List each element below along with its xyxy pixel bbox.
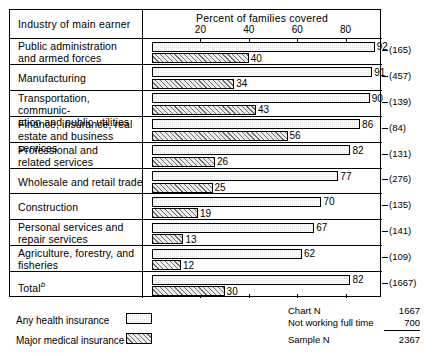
sample-size-value-1: (457) [389, 71, 411, 81]
bar-value-major-medical-6: 19 [200, 209, 211, 219]
category-label-0: Public administrationand armed forces [18, 40, 144, 64]
legend-swatch-any-health-insurance [126, 313, 152, 324]
bar-value-major-medical-5: 25 [215, 183, 226, 193]
bar-any-health-1 [152, 67, 372, 77]
stat-value-sample-n: 2367 [399, 334, 420, 345]
stat-label-sample-n: Sample N [288, 334, 330, 345]
x-tickmark-bottom-80 [346, 294, 347, 298]
sample-size-tick-8 [382, 257, 388, 258]
sample-size-value-2: (139) [389, 97, 411, 107]
sample-size-value-6: (135) [389, 200, 411, 210]
x-tick-label-20: 20 [195, 24, 206, 35]
sample-size-value-9: (1667) [389, 278, 416, 288]
stat-value-chart-n: 1667 [399, 305, 420, 316]
category-label-6: Construction [18, 201, 144, 213]
bar-value-major-medical-8: 12 [183, 261, 194, 271]
bar-value-major-medical-4: 26 [217, 157, 228, 167]
category-label-line: Agriculture, forestry, and [18, 247, 144, 259]
bar-any-health-7 [152, 223, 314, 233]
legend-label-major-medical-insurance: Major medical insurance [16, 335, 124, 346]
stat-row-chart-n: Chart N 1667 [288, 305, 420, 317]
category-label-line: Public administration [18, 40, 144, 52]
category-label-line: Personal services and [18, 221, 144, 233]
category-label-line: Finance, insurance, real [18, 118, 144, 130]
sample-size-tick-7 [382, 231, 388, 232]
bar-value-major-medical-9: 30 [227, 287, 238, 297]
stat-row-sample-n: Sample N 2367 [288, 334, 420, 346]
bar-value-any-health-3: 86 [362, 120, 373, 130]
bar-major-medical-5 [152, 183, 213, 193]
category-label-line: and armed forces [18, 52, 144, 64]
x-tick-label-80: 80 [340, 24, 351, 35]
category-label-line: repair services [18, 233, 144, 245]
category-label-line: Wholesale and retail trade [18, 176, 144, 188]
chart-legend: Any health insurance Major medical insur… [16, 312, 156, 352]
sample-size-tick-1 [382, 76, 388, 77]
bar-value-any-health-8: 62 [304, 249, 315, 259]
x-tick-label-60: 60 [292, 24, 303, 35]
health-insurance-bar-chart: Industry of main earner Percent of famil… [0, 0, 434, 356]
bar-major-medical-3 [152, 131, 288, 141]
bar-value-any-health-7: 67 [316, 223, 327, 233]
bar-value-major-medical-0: 40 [251, 54, 262, 64]
bar-any-health-9 [152, 275, 350, 285]
bar-value-any-health-5: 77 [340, 172, 351, 182]
bar-value-major-medical-2: 43 [258, 105, 269, 115]
sample-size-value-5: (276) [389, 174, 411, 184]
bar-major-medical-4 [152, 157, 215, 167]
stat-sum-rule [384, 330, 420, 331]
category-label-line: Construction [18, 201, 144, 213]
sample-size-tick-9 [382, 283, 388, 284]
bar-major-medical-8 [152, 260, 181, 270]
bar-major-medical-1 [152, 79, 234, 89]
axis-title: Percent of families covered [143, 12, 381, 24]
footnote-marker: b [41, 280, 46, 289]
sample-size-value-4: (131) [389, 149, 411, 159]
category-label-line: Totalb [18, 279, 144, 294]
chart-frame: Industry of main earner Percent of famil… [9, 9, 381, 297]
x-tickmark-bottom-40 [249, 294, 250, 298]
bar-any-health-4 [152, 145, 350, 155]
bar-major-medical-7 [152, 234, 183, 244]
stat-label-not-working-full-time: Not working full time [288, 317, 374, 328]
stats-block: Chart N 1667 Not working full time 700 S… [288, 305, 420, 346]
bar-major-medical-6 [152, 208, 198, 218]
bar-any-health-8 [152, 249, 302, 259]
legend-item-any-health-insurance: Any health insurance [16, 312, 156, 332]
legend-label-any-health-insurance: Any health insurance [16, 315, 109, 326]
stat-label-chart-n: Chart N [288, 305, 321, 316]
stat-row-not-working-full-time: Not working full time 700 [288, 317, 420, 329]
bar-major-medical-2 [152, 105, 256, 115]
category-label-line: Professional and [18, 144, 144, 156]
bar-value-major-medical-1: 34 [236, 79, 247, 89]
category-label-7: Personal services andrepair services [18, 221, 144, 245]
bar-major-medical-9 [152, 286, 225, 296]
sample-size-tick-4 [382, 154, 388, 155]
bar-major-medical-0 [152, 53, 249, 63]
category-label-9: Totalb [18, 279, 144, 294]
sample-size-tick-3 [382, 128, 388, 129]
bar-any-health-5 [152, 171, 338, 181]
category-label-8: Agriculture, forestry, andfisheries [18, 247, 144, 271]
category-label-1: Manufacturing [18, 72, 144, 84]
category-label-line: Transportation, communic- [18, 92, 144, 116]
row-label-header: Industry of main earner [18, 18, 131, 30]
x-tick-label-40: 40 [243, 24, 254, 35]
legend-item-major-medical-insurance: Major medical insurance [16, 332, 156, 352]
sample-size-value-0: (165) [389, 45, 411, 55]
stat-value-not-working-full-time: 700 [404, 317, 420, 328]
category-label-line: Manufacturing [18, 72, 144, 84]
sample-size-value-3: (84) [389, 123, 406, 133]
bar-any-health-6 [152, 197, 321, 207]
plot-area: 9291908682777067628240344356262519131230 [142, 38, 382, 298]
bar-any-health-2 [152, 93, 370, 103]
sample-size-tick-0 [382, 50, 388, 51]
bar-value-any-health-9: 82 [352, 275, 363, 285]
category-label-5: Wholesale and retail trade [18, 176, 144, 188]
sample-size-tick-5 [382, 179, 388, 180]
bar-value-major-medical-3: 56 [290, 131, 301, 141]
sample-size-value-7: (141) [389, 226, 411, 236]
bar-any-health-0 [152, 42, 375, 52]
bar-value-any-health-4: 82 [352, 146, 363, 156]
category-label-line: related services [18, 156, 144, 168]
